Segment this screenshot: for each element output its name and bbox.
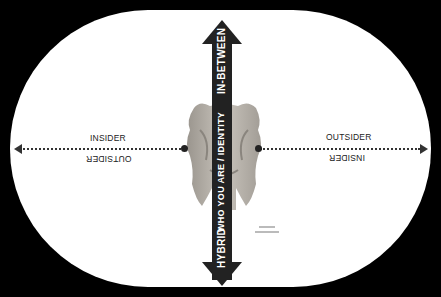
left-bottom-label-inverted: OUTSIDER bbox=[86, 154, 132, 164]
vertical-bottom-label: HYBRID bbox=[216, 228, 227, 268]
arrow-right-icon bbox=[420, 144, 428, 154]
vertical-middle-label: WHO YOU ARE / IDENTITY bbox=[216, 112, 226, 232]
right-top-label: OUTSIDER bbox=[326, 132, 372, 142]
left-pivot-dot bbox=[181, 145, 188, 152]
horizontal-axis-left bbox=[20, 148, 184, 150]
right-pivot-dot bbox=[255, 145, 262, 152]
right-bottom-label-inverted: INSIDER bbox=[329, 153, 365, 163]
vertical-top-label: IN-BETWEEN bbox=[216, 28, 227, 94]
image-caption bbox=[255, 226, 279, 236]
left-top-label: INSIDER bbox=[90, 133, 126, 143]
horizontal-axis-right bbox=[260, 148, 420, 150]
